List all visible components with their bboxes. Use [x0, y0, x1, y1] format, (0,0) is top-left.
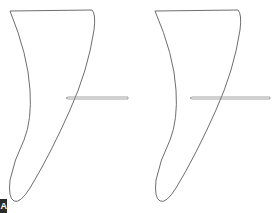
panel-label: A — [0, 199, 7, 213]
root-canal-diagram — [0, 0, 273, 213]
root-outline-left — [10, 10, 129, 201]
figure: A — [0, 0, 273, 213]
root-outline-right — [155, 10, 270, 201]
needle-right — [190, 97, 270, 99]
